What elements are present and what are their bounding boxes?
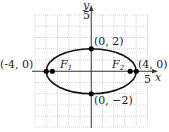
- vertex-left-point: [44, 69, 49, 74]
- point-label-left: (-4, 0): [0, 58, 33, 71]
- point-label-right: (4, 0): [138, 58, 168, 71]
- point-label-bottom: (0, −2): [94, 94, 133, 107]
- focus-1-label: F1: [59, 58, 72, 72]
- ellipse-diagram: y 5 x 5 (0, 2) (0, −2) (-4, 0) (4, 0) F1…: [0, 0, 169, 132]
- focus-2-point: [128, 69, 133, 74]
- focus-1-point: [50, 69, 55, 74]
- x-axis-label: x: [155, 71, 162, 84]
- y-tick-label: 5: [83, 9, 90, 22]
- x-tick-label: 5: [144, 73, 151, 86]
- focus-2-label: F2: [111, 58, 125, 72]
- point-label-top: (0, 2): [94, 35, 124, 48]
